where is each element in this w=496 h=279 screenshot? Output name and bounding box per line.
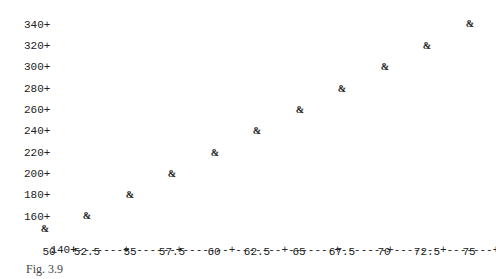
x-tick-label: 50 (42, 246, 55, 258)
x-tick-label: 62.5 (244, 246, 270, 258)
data-point: & (83, 211, 91, 221)
data-point: & (466, 19, 474, 29)
y-tick-label: 340+ (24, 19, 50, 31)
x-tick-label: 75 (462, 246, 475, 258)
data-point: & (381, 62, 389, 72)
figure-caption: Fig. 3.9 (26, 262, 63, 277)
y-tick-label: 180+ (24, 189, 50, 201)
data-point: & (168, 169, 176, 179)
y-tick-label: 320+ (24, 40, 50, 52)
y-tick-label: 240+ (24, 125, 50, 137)
y-tick-label: 300+ (24, 61, 50, 73)
y-tick-label: 160+ (24, 211, 50, 223)
data-point: & (126, 190, 134, 200)
x-tick-label: 52.5 (74, 246, 100, 258)
y-tick-label: 220+ (24, 147, 50, 159)
x-tick-label: 57.5 (159, 246, 185, 258)
data-point: & (211, 148, 219, 158)
x-tick-label: 65 (292, 246, 305, 258)
data-point: & (338, 84, 346, 94)
y-tick-label: 280+ (24, 83, 50, 95)
y-tick-label: 260+ (24, 104, 50, 116)
x-tick-label: 60 (207, 246, 220, 258)
x-tick-label: 67.5 (329, 246, 355, 258)
data-point: & (41, 224, 49, 234)
data-point: & (296, 105, 304, 115)
y-tick-label: 200+ (24, 168, 50, 180)
x-tick-label: 70 (377, 246, 390, 258)
data-point: & (253, 126, 261, 136)
x-tick-label: 72.5 (414, 246, 440, 258)
x-tick-label: 55 (123, 246, 136, 258)
data-point: & (423, 41, 431, 51)
